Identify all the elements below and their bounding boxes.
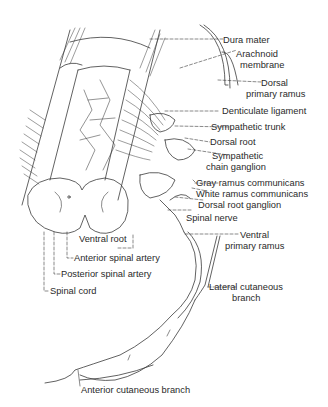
label-anterior-spinal-artery: Anterior spinal artery <box>74 253 160 263</box>
label-sympathetic-trunk: Sympathetic trunk <box>211 122 285 132</box>
label-spinal-cord: Spinal cord <box>50 286 97 296</box>
label-dorsal-primary-ramus-line2: primary ramus <box>246 89 305 99</box>
label-dorsal-root-ganglion: Dorsal root ganglion <box>198 200 281 210</box>
spinal-cord-cross-section <box>28 178 128 233</box>
label-arachnoid-membrane-line2: membrane <box>240 60 284 70</box>
spinal-cord-body <box>50 66 130 180</box>
label-gray-ramus-communicans: Gray ramus communicans <box>196 178 305 188</box>
label-posterior-spinal-artery: Posterior spinal artery <box>61 269 151 279</box>
label-ventral-primary-ramus-line1: Ventral <box>240 230 269 240</box>
label-dorsal-primary-ramus-line1: Dorsal <box>261 78 288 88</box>
label-dorsal-root: Dorsal root <box>210 137 255 147</box>
label-spinal-nerve: Spinal nerve <box>186 213 238 223</box>
label-dura-mater: Dura mater <box>223 35 270 45</box>
nerve-rootlets <box>116 80 165 160</box>
label-anterior-cutaneous-branch: Anterior cutaneous branch <box>81 385 190 395</box>
label-arachnoid-membrane-line1: Arachnoid <box>236 49 278 59</box>
label-denticulate-ligament: Denticulate ligament <box>222 106 306 116</box>
label-sympathetic-chain-ganglion-line1: Sympathetic <box>212 151 263 161</box>
label-lateral-cutaneous-branch-line2: branch <box>232 293 260 303</box>
label-ventral-root: Ventral root <box>79 234 127 244</box>
dura-mater-tube <box>20 28 165 205</box>
label-white-ramus-communicans: White ramus communicans <box>196 189 308 199</box>
label-ventral-primary-ramus-line2: primary ramus <box>225 241 284 251</box>
label-sympathetic-chain-ganglion-line2: chain ganglion <box>206 162 266 172</box>
label-lateral-cutaneous-branch-line1: Lateral cutaneous <box>209 282 283 292</box>
